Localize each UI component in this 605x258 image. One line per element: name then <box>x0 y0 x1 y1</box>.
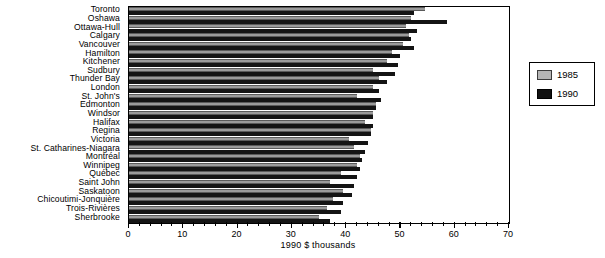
x-tick-minor <box>421 222 422 226</box>
bar-group <box>129 119 509 128</box>
x-tick-major <box>182 222 183 228</box>
x-tick-label: 50 <box>394 229 404 239</box>
category-label: Sherbrooke <box>75 213 120 222</box>
x-tick-minor <box>432 222 433 226</box>
x-tick-minor <box>389 222 390 226</box>
x-tick-minor <box>486 222 487 226</box>
x-tick-label: 30 <box>286 229 296 239</box>
x-tick-minor <box>204 222 205 226</box>
x-axis: 010203040506070 <box>128 222 508 223</box>
chart-legend: 1985 1990 <box>529 62 595 106</box>
x-tick-minor <box>258 222 259 226</box>
bar-group <box>129 145 509 154</box>
x-tick-minor <box>269 222 270 226</box>
bar-group <box>129 128 509 137</box>
x-tick-minor <box>280 222 281 226</box>
x-tick-major <box>291 222 292 228</box>
x-tick-minor <box>247 222 248 226</box>
bar-group <box>129 171 509 180</box>
x-tick-major <box>454 222 455 228</box>
bar-group <box>129 67 509 76</box>
bar-group <box>129 33 509 42</box>
x-tick-minor <box>367 222 368 226</box>
legend-label-1990: 1990 <box>557 88 578 99</box>
bar-group <box>129 154 509 163</box>
x-tick-major <box>508 222 509 228</box>
bar-group <box>129 197 509 206</box>
x-tick-label: 20 <box>232 229 242 239</box>
x-axis-title: 1990 $ thousands <box>128 240 508 250</box>
bar-group <box>129 59 509 68</box>
bar-chart-figure: TorontoOshawaOttawa-HullCalgaryVancouver… <box>0 0 605 258</box>
category-axis-labels: TorontoOshawaOttawa-HullCalgaryVancouver… <box>0 6 124 222</box>
bar-group <box>129 102 509 111</box>
x-tick-label: 10 <box>177 229 187 239</box>
bar-group <box>129 24 509 33</box>
x-tick-major <box>345 222 346 228</box>
x-tick-minor <box>356 222 357 226</box>
legend-swatch-1985 <box>537 70 552 80</box>
x-tick-minor <box>302 222 303 226</box>
bar-group <box>129 163 509 172</box>
bar-group <box>129 50 509 59</box>
x-tick-minor <box>475 222 476 226</box>
x-tick-label: 0 <box>125 229 130 239</box>
bar-group <box>129 76 509 85</box>
x-tick-minor <box>465 222 466 226</box>
x-tick-minor <box>410 222 411 226</box>
x-tick-minor <box>161 222 162 226</box>
x-tick-minor <box>378 222 379 226</box>
bar-group <box>129 93 509 102</box>
x-tick-label: 70 <box>503 229 513 239</box>
x-tick-minor <box>323 222 324 226</box>
bar-group <box>129 137 509 146</box>
x-tick-minor <box>193 222 194 226</box>
legend-entry-1985: 1985 <box>537 69 578 80</box>
x-tick-minor <box>313 222 314 226</box>
bar-group <box>129 206 509 215</box>
legend-entry-1990: 1990 <box>537 88 578 99</box>
plot-area <box>128 6 510 224</box>
x-tick-major <box>128 222 129 228</box>
x-tick-major <box>399 222 400 228</box>
legend-swatch-1990 <box>537 89 552 99</box>
x-tick-label: 60 <box>449 229 459 239</box>
x-tick-label: 40 <box>340 229 350 239</box>
x-tick-minor <box>171 222 172 226</box>
bar-group <box>129 188 509 197</box>
legend-label-1985: 1985 <box>557 69 578 80</box>
bar-group <box>129 85 509 94</box>
x-tick-minor <box>443 222 444 226</box>
x-tick-minor <box>497 222 498 226</box>
x-tick-minor <box>150 222 151 226</box>
x-tick-major <box>237 222 238 228</box>
bar-group <box>129 111 509 120</box>
x-tick-minor <box>226 222 227 226</box>
x-tick-minor <box>215 222 216 226</box>
bar-group <box>129 7 509 16</box>
bar-group <box>129 16 509 25</box>
bar-group <box>129 42 509 51</box>
bars-container <box>129 7 509 223</box>
x-tick-minor <box>139 222 140 226</box>
x-tick-minor <box>334 222 335 226</box>
bar-group <box>129 180 509 189</box>
